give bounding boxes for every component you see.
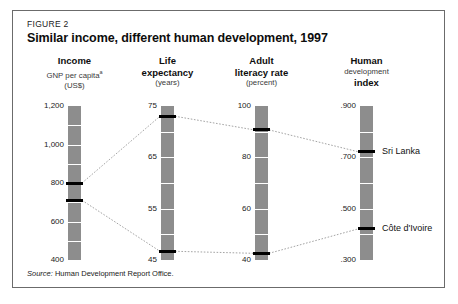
column-header-main: Human [312,55,422,67]
gridline [161,234,174,235]
tick-label: 100 [207,101,251,110]
connector-segment [82,116,160,183]
data-marker-adult-literacy [253,252,270,255]
column-header-adult-literacy: Adultliteracy rate(percent) [207,55,317,89]
gridline [255,209,268,210]
gridline [161,157,174,158]
data-marker-income [66,182,83,185]
connector-segment [175,116,254,130]
axis-bar-life-expectancy [161,106,174,260]
tick-label: .300 [312,255,356,264]
gridline [255,132,268,133]
tick-label: 600 [20,217,64,226]
tick-label: 1,200 [20,101,64,110]
gridline [161,183,174,184]
tick-label: 75 [113,101,157,110]
figure-page: FIGURE 2 Similar income, different human… [0,0,458,304]
gridline [161,209,174,210]
series-label: Sri Lanka [382,146,420,156]
data-marker-life-expectancy [159,115,176,118]
source-prefix: Source: [27,269,53,278]
tick-label: 45 [113,255,157,264]
data-marker-human-development-index [358,227,375,230]
gridline [255,183,268,184]
tick-label: 80 [207,152,251,161]
tick-label: 40 [207,255,251,264]
tick-label: 55 [113,204,157,213]
column-header-human-development-index: Humandevelopmentindex [312,55,422,89]
tick-label: 65 [113,152,157,161]
column-header-sub: development [312,67,422,78]
connector-segment [269,229,359,254]
tick-label: .900 [312,101,356,110]
series-label: Côte d'Ivoire [382,223,432,233]
tick-label: 60 [207,204,251,213]
gridline [255,234,268,235]
data-marker-life-expectancy [159,250,176,253]
gridline [360,157,373,158]
gridline [255,157,268,158]
footnote-marker: a [100,69,103,75]
column-header-main: Adult [207,55,317,67]
tick-label: .500 [312,204,356,213]
tick-label: 1,000 [20,140,64,149]
figure-frame: FIGURE 2 Similar income, different human… [12,10,445,288]
gridline [68,125,81,126]
connector-segment [269,130,359,152]
column-header-sub: literacy rate [207,67,317,79]
tick-label: .700 [312,152,356,161]
gridline [68,222,81,223]
source-note: Source: Human Development Report Office. [27,269,174,278]
chart-plot-area: IncomeGNP per capitaa(US$)4006008001,000… [13,11,446,289]
gridline [360,234,373,235]
gridline [360,209,373,210]
gridline [68,145,81,146]
axis-bar-human-development-index [360,106,373,260]
gridline [161,132,174,133]
data-marker-income [66,199,83,202]
gridline [68,164,81,165]
gridline [360,183,373,184]
gridline [68,202,81,203]
data-marker-human-development-index [358,150,375,153]
gridline [360,132,373,133]
tick-label: 400 [20,255,64,264]
data-marker-adult-literacy [253,128,270,131]
column-header-unit: (percent) [207,78,317,89]
gridline [68,241,81,242]
tick-label: 800 [20,178,64,187]
connector-segment [175,251,254,253]
source-text: Human Development Report Office. [55,269,174,278]
column-header-unit: index [312,77,422,89]
